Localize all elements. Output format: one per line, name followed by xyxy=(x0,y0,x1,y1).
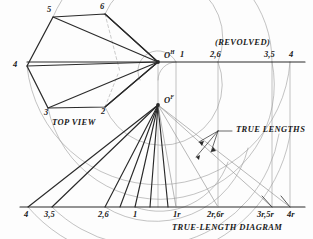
true-length-rays xyxy=(158,105,290,207)
front-view-rays xyxy=(28,105,168,207)
base-label-2r-6r: 2r,6r xyxy=(207,210,224,219)
true-length-diagram-svg xyxy=(0,0,313,239)
ray-OF-2-6 xyxy=(105,105,158,207)
axis-tick-label-3-5: 3,5 xyxy=(264,50,275,59)
dot-apex-top xyxy=(156,60,160,64)
edge-OH-2 xyxy=(105,62,158,107)
tl-ray-4r xyxy=(158,105,290,207)
true-lengths-arrowheads xyxy=(196,141,216,160)
base-label-4r: 4r xyxy=(287,210,295,219)
arc-1-small xyxy=(158,62,176,80)
axis-tick-label-2-6: 2,6 xyxy=(210,50,221,59)
vertex-label-6: 6 xyxy=(100,2,104,11)
ray-OF-inner-b xyxy=(158,105,168,207)
axis-tick-label-4: 4 xyxy=(289,50,293,59)
edge-OH-3 xyxy=(48,62,158,108)
apex-front-label: OF xyxy=(164,95,174,104)
base-label-3-5: 3,5 xyxy=(44,210,55,219)
dot-apex-front xyxy=(156,103,160,107)
vertical-projectors xyxy=(158,62,290,207)
edge-OH-4 xyxy=(27,62,158,66)
tl-ray-3r-5r xyxy=(158,105,272,207)
base-label-4: 4 xyxy=(24,210,28,219)
base-label-1: 1 xyxy=(133,210,137,219)
top-view-hexagon xyxy=(27,14,158,108)
hidden-lines xyxy=(105,14,120,107)
apex-top-superscript: H xyxy=(170,49,174,55)
diagram-title: TRUE-LENGTH DIAGRAM xyxy=(172,223,282,232)
drawing-sheet: 5 6 4 3 2 OH OF 1 2,6 3,5 4 (REVOLVED) T… xyxy=(0,0,313,239)
edge-OH-5 xyxy=(53,17,158,62)
vertex-label-2: 2 xyxy=(101,107,105,116)
base-label-1r: 1r xyxy=(173,210,181,219)
apex-top-label: OH xyxy=(164,50,174,59)
vertex-label-3: 3 xyxy=(44,108,48,117)
vertex-label-5: 5 xyxy=(47,5,51,14)
true-lengths-label: TRUE LENGTHS xyxy=(236,125,305,134)
base-label-3r-5r: 3r,5r xyxy=(257,210,274,219)
edge-OH-6 xyxy=(105,14,158,62)
arc-front-1 xyxy=(135,162,228,211)
top-view-label: TOP VIEW xyxy=(52,118,96,127)
apex-front-superscript: F xyxy=(170,94,174,100)
axis-tick-label-1: 1 xyxy=(180,50,184,59)
vertex-label-4: 4 xyxy=(13,60,17,69)
revolved-label: (REVOLVED) xyxy=(215,38,270,47)
base-label-2-6: 2,6 xyxy=(98,210,109,219)
